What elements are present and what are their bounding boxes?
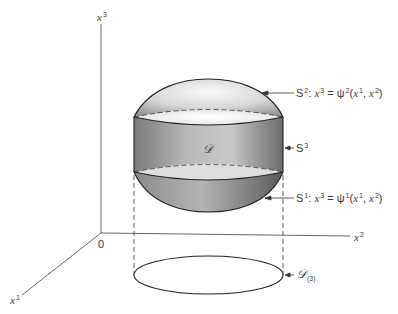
x3-axis-label: x3	[97, 11, 107, 23]
origin-label: 0	[98, 239, 104, 250]
diagram-canvas	[0, 0, 398, 314]
surface-s1-label: S1: x3 = ψ1(x1, x2)	[296, 192, 383, 204]
x1-axis	[22, 233, 101, 295]
x2-axis	[101, 233, 350, 236]
region-d-label: 𝒟	[203, 143, 213, 155]
projection-region-ellipse	[134, 256, 283, 294]
projection-d3-label: 𝒟(3)	[297, 268, 316, 282]
x2-axis-label: x2	[354, 231, 364, 243]
surface-s2-label: S2: x3 = ψ2(x1, x2)	[296, 87, 383, 99]
x1-axis-label: x1	[10, 294, 20, 306]
surface-s3-label: S3	[296, 142, 308, 154]
